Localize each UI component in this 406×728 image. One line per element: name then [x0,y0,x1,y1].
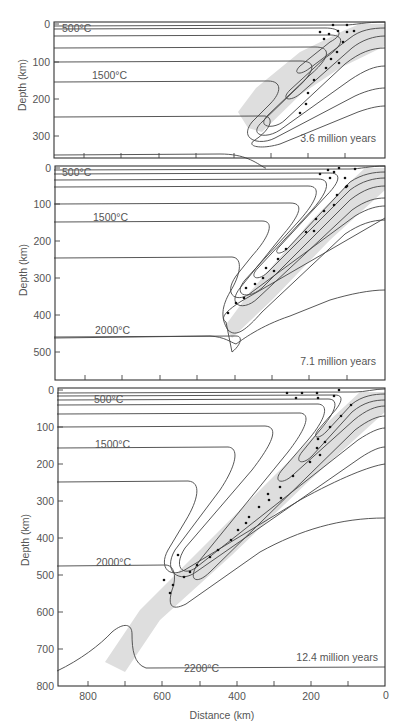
y-tick-label: 100 [33,198,51,210]
isotherm-label-500: 500°C [62,166,92,178]
y-tick-label: 300 [36,495,54,507]
isotherm-label-2200: 2200°C [184,662,220,674]
y-tick-label: 0 [45,162,51,174]
y-tick-label: 800 [36,680,54,692]
y-axis-label: Depth (km) [16,59,28,111]
time-label: 7.1 million years [300,355,376,367]
panel-3.6-myr: 500°C 1500°C 0 100 200 300 Depth (km) 3.… [16,18,385,168]
y-axis-ticks [58,390,63,649]
x-axis-label: Distance (km) [190,709,255,721]
x-tick-label: 200 [302,690,320,702]
y-tick-label: 100 [32,56,50,68]
y-axis-label: Depth (km) [17,244,29,296]
y-tick-label: 400 [36,532,54,544]
y-tick-label: 600 [36,606,54,618]
isotherm-label-500: 500°C [62,22,92,34]
y-tick-label: 0 [44,18,50,30]
x-tick-label: 400 [228,690,246,702]
y-axis-ticks [55,168,60,352]
x-tick-label: 0 [383,689,389,701]
y-tick-label: 100 [36,421,54,433]
panel-12.4-myr: 500°C 1500°C 2000°C 2200°C 0 100 200 300… [19,384,389,721]
x-tick-label: 600 [153,690,171,702]
isotherm-label-2000: 2000°C [95,324,131,336]
y-tick-label: 0 [48,384,54,396]
y-tick-label: 500 [36,569,54,581]
y-tick-label: 500 [33,346,51,358]
x-axis-ticks [88,681,348,686]
time-label: 12.4 million years [296,651,378,663]
x-axis-ticks [85,375,347,380]
y-tick-label: 300 [32,130,50,142]
isotherm-label-1500: 1500°C [93,211,129,223]
slab-shading [105,392,385,672]
y-tick-label: 400 [33,309,51,321]
panel-7.1-myr: 500°C 1500°C 2000°C 0 100 200 300 400 50… [17,162,385,380]
y-tick-label: 700 [36,643,54,655]
y-tick-label: 300 [33,272,51,284]
y-axis-label: Depth (km) [19,514,31,566]
y-axis-ticks [54,24,59,136]
isotherm-label-2000: 2000°C [96,556,132,568]
isotherm-label-1500: 1500°C [92,69,128,81]
y-tick-label: 200 [36,458,54,470]
isotherm-label-500: 500°C [94,393,124,405]
isotherm-label-1500: 1500°C [95,438,131,450]
time-label: 3.6 million years [300,132,376,144]
y-tick-label: 200 [33,235,51,247]
earthquake-hypocenters [227,167,357,315]
x-tick-label: 800 [79,690,97,702]
y-tick-label: 200 [32,93,50,105]
subduction-thermal-figure: 500°C 1500°C 0 100 200 300 Depth (km) 3.… [0,0,406,728]
